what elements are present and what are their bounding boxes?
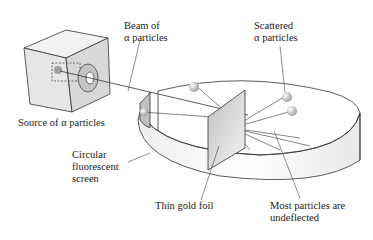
particle-icon — [189, 82, 199, 92]
screen-label: Circular fluorescent screen — [72, 149, 119, 185]
particle-icon — [282, 92, 292, 102]
alpha-source-box — [24, 30, 110, 112]
particle-icon — [287, 106, 297, 116]
foil-label: Thin gold foil — [155, 200, 213, 212]
circular-fluorescent-screen — [138, 81, 360, 180]
undeflected-label: Most particles are undeflected — [270, 200, 345, 224]
scattered-label: Scattered α particles — [254, 20, 298, 44]
particle-icon — [140, 108, 148, 116]
source-label: Source of α particles — [18, 117, 105, 129]
gold-foil-diagram: Beam of α particles Source of α particle… — [0, 0, 373, 240]
beam-label: Beam of α particles — [124, 20, 168, 44]
